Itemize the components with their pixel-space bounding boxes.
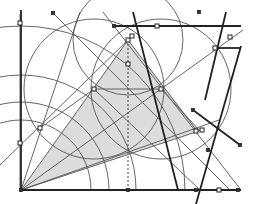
- open-point-marker: [18, 141, 22, 145]
- solid-point-marker: [20, 189, 23, 192]
- solid-point-marker: [127, 189, 130, 192]
- open-point-marker: [126, 62, 130, 66]
- solid-point-marker: [239, 144, 242, 147]
- solid-point-marker: [198, 11, 201, 14]
- solid-point-marker: [52, 12, 55, 15]
- thick-line: [196, 46, 241, 204]
- diagram-canvas: [0, 0, 260, 204]
- open-point-marker: [126, 38, 130, 42]
- open-point-marker: [18, 21, 22, 25]
- geometric-construction-figure: [0, 0, 260, 204]
- open-point-marker: [217, 188, 221, 192]
- open-point-marker: [200, 128, 204, 132]
- solid-point-marker: [192, 109, 195, 112]
- solid-point-marker: [195, 189, 198, 192]
- solid-point-marker: [207, 149, 210, 152]
- open-point-marker: [92, 87, 96, 91]
- open-point-marker: [38, 126, 42, 130]
- open-point-marker: [213, 46, 217, 50]
- solid-point-marker: [113, 25, 116, 28]
- open-point-marker: [155, 24, 159, 28]
- solid-point-marker: [237, 189, 240, 192]
- open-point-marker: [130, 34, 134, 38]
- open-point-marker: [159, 87, 163, 91]
- open-point-marker: [228, 35, 232, 39]
- open-point-marker: [194, 129, 198, 133]
